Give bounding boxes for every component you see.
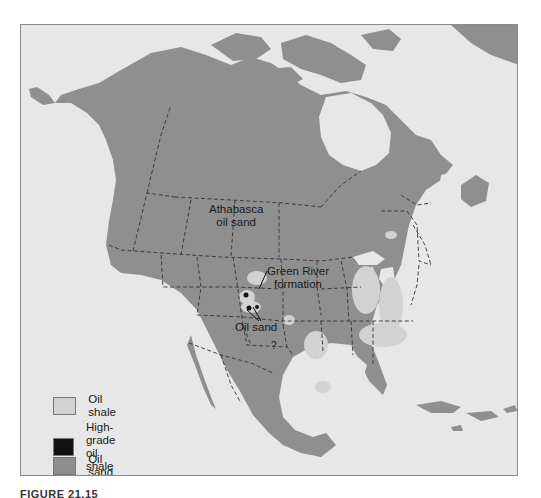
map-frame: Athabasca oil sand Green River formation… xyxy=(20,24,518,476)
legend-label-oil-shale: Oil shale xyxy=(88,393,122,419)
figure-caption: FIGURE 21.15 xyxy=(20,488,98,498)
legend-item-oil-sand: Oil sand xyxy=(53,453,120,476)
oil-shale-swatch xyxy=(53,397,76,415)
legend-label-high-grade-line1: High-grade xyxy=(86,421,115,446)
legend-item-oil-shale: Oil shale xyxy=(53,393,123,419)
legend-label-oil-sand: Oil sand xyxy=(88,453,120,476)
question-mark-label: ? xyxy=(271,339,277,352)
oil-sand-label: Oil sand xyxy=(235,321,277,334)
oil-sand-swatch xyxy=(53,457,76,475)
